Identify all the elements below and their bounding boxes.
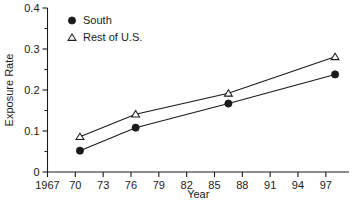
data-point-rest-of-us (224, 90, 232, 96)
x-axis-title: Year (187, 188, 210, 200)
y-axis-tick-label: 0.1 (24, 125, 39, 137)
x-axis-tick-label: 70 (69, 179, 81, 191)
x-axis-tick-label: 94 (292, 179, 304, 191)
data-point-rest-of-us (331, 53, 339, 59)
legend-marker-south (68, 17, 75, 24)
data-point-south (225, 100, 232, 107)
y-axis-tick-label: 0.4 (24, 2, 39, 14)
x-axis-tick-label: 97 (320, 179, 332, 191)
x-axis-tick-label: 79 (153, 179, 165, 191)
x-axis-tick-label: 76 (125, 179, 137, 191)
legend-label-south: South (83, 14, 112, 26)
x-axis-tick-label: 73 (97, 179, 109, 191)
x-axis-tick-label: 91 (264, 179, 276, 191)
x-axis-tick-label: 85 (208, 179, 220, 191)
chart-canvas: 00.10.20.30.4196770737679828588919497Yea… (0, 0, 358, 202)
series-line-south (80, 74, 335, 150)
x-axis-tick-label: 1967 (35, 179, 59, 191)
data-point-south (331, 71, 338, 78)
legend-label-rest-of-us: Rest of U.S. (83, 31, 142, 43)
series-line-rest-of-us (80, 57, 335, 137)
y-axis-title: Exposure Rate (3, 54, 15, 127)
legend-marker-rest-of-us (68, 34, 76, 40)
y-axis-tick-label: 0.3 (24, 43, 39, 55)
y-axis-tick-label: 0.2 (24, 84, 39, 96)
data-point-south (76, 147, 83, 154)
x-axis-tick-label: 88 (236, 179, 248, 191)
data-point-south (132, 124, 139, 131)
y-axis-tick-label: 0 (33, 166, 39, 178)
data-point-rest-of-us (76, 133, 84, 139)
exposure-rate-line-chart: 00.10.20.30.4196770737679828588919497Yea… (0, 0, 358, 202)
